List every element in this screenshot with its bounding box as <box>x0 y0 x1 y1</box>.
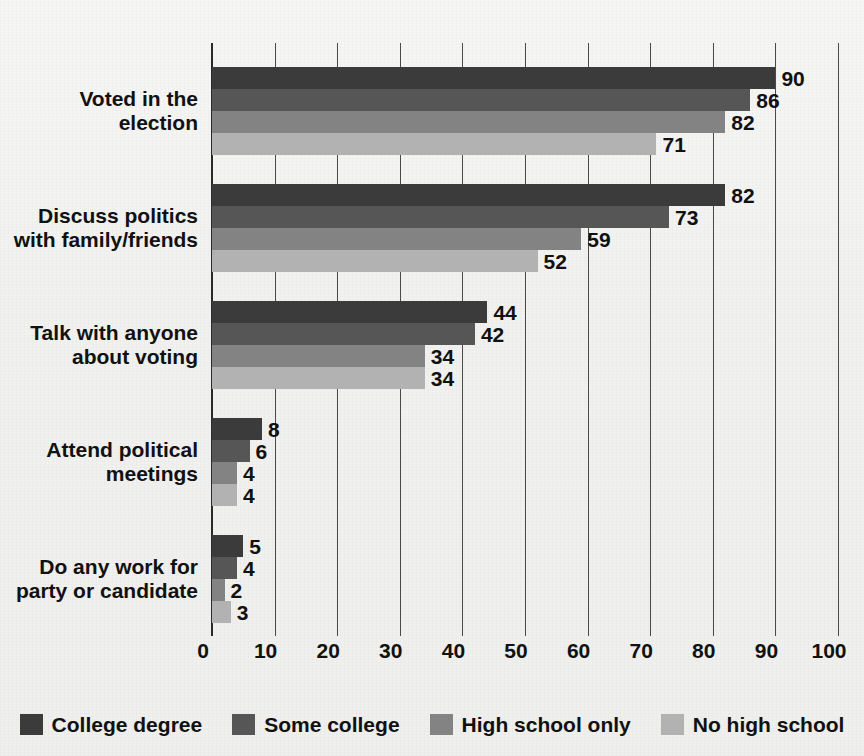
legend-item[interactable]: College degree <box>20 714 203 735</box>
bar-row: 82 <box>212 184 838 206</box>
bar[interactable] <box>212 579 225 601</box>
bar[interactable] <box>212 89 750 111</box>
chart-root: 90868271827359524442343486445423 Voted i… <box>0 0 864 756</box>
grid-line <box>838 43 839 636</box>
bar[interactable] <box>212 301 487 323</box>
legend-label: High school only <box>462 714 631 735</box>
bar-row: 2 <box>212 579 838 601</box>
bar-group: 44423434 <box>212 301 838 389</box>
bar[interactable] <box>212 111 725 133</box>
bar-value-label: 34 <box>431 368 454 389</box>
bar-group: 8644 <box>212 418 838 506</box>
x-tick-label: 20 <box>317 640 340 661</box>
bar[interactable] <box>212 601 231 623</box>
bar-row: 82 <box>212 111 838 133</box>
x-tick-label: 70 <box>630 640 653 661</box>
bar-row: 8 <box>212 418 838 440</box>
bar-row: 52 <box>212 250 838 272</box>
bar-group: 82735952 <box>212 184 838 272</box>
x-tick-label: 50 <box>504 640 527 661</box>
bar-row: 42 <box>212 323 838 345</box>
bar-row: 90 <box>212 67 838 89</box>
bar-row: 71 <box>212 133 838 155</box>
category-label: Discuss politics with family/friends <box>14 204 198 253</box>
category-label: Talk with anyone about voting <box>30 321 198 370</box>
legend-label: No high school <box>693 714 845 735</box>
bar-group: 90868271 <box>212 67 838 155</box>
legend-swatch-icon <box>20 714 43 735</box>
x-tick-label: 80 <box>692 640 715 661</box>
x-tick-label: 90 <box>755 640 778 661</box>
bar[interactable] <box>212 462 237 484</box>
bar-value-label: 90 <box>781 68 804 89</box>
bar[interactable] <box>212 133 656 155</box>
bar[interactable] <box>212 228 581 250</box>
bar[interactable] <box>212 67 775 89</box>
bar[interactable] <box>212 418 262 440</box>
bar-row: 6 <box>212 440 838 462</box>
bar-row: 3 <box>212 601 838 623</box>
legend-swatch-icon <box>232 714 255 735</box>
bar-value-label: 5 <box>249 536 261 557</box>
legend-item[interactable]: High school only <box>430 714 631 735</box>
legend-item[interactable]: No high school <box>661 714 845 735</box>
bar-value-label: 4 <box>243 558 255 579</box>
bar[interactable] <box>212 440 250 462</box>
x-tick-label: 40 <box>442 640 465 661</box>
bar[interactable] <box>212 184 725 206</box>
bar-row: 34 <box>212 345 838 367</box>
bar-value-label: 71 <box>662 134 685 155</box>
x-tick-label: 0 <box>197 640 209 661</box>
x-tick-label: 100 <box>811 640 846 661</box>
bar-value-label: 52 <box>544 251 567 272</box>
bar-row: 86 <box>212 89 838 111</box>
plot-area: 90868271827359524442343486445423 <box>212 43 838 636</box>
bar-value-label: 59 <box>587 229 610 250</box>
bar-value-label: 8 <box>268 419 280 440</box>
bar-value-label: 6 <box>256 441 268 462</box>
bar[interactable] <box>212 557 237 579</box>
bar-value-label: 3 <box>237 602 249 623</box>
category-label: Voted in the election <box>0 87 198 136</box>
bar-value-label: 42 <box>481 324 504 345</box>
legend-label: College degree <box>52 714 203 735</box>
category-label: Attend political meetings <box>46 438 198 487</box>
bar-group: 5423 <box>212 535 838 623</box>
bar[interactable] <box>212 206 669 228</box>
bar-value-label: 4 <box>243 463 255 484</box>
bar[interactable] <box>212 250 538 272</box>
bar-row: 4 <box>212 557 838 579</box>
x-tick-label: 10 <box>254 640 277 661</box>
bar-value-label: 2 <box>231 580 243 601</box>
bar-value-label: 4 <box>243 485 255 506</box>
bar-row: 34 <box>212 367 838 389</box>
bar[interactable] <box>212 345 425 367</box>
bar[interactable] <box>212 367 425 389</box>
bar-value-label: 82 <box>731 185 754 206</box>
legend-swatch-icon <box>661 714 684 735</box>
bar-value-label: 34 <box>431 346 454 367</box>
bar-row: 73 <box>212 206 838 228</box>
chart-legend: College degreeSome collegeHigh school on… <box>0 714 864 735</box>
bar[interactable] <box>212 484 237 506</box>
bar-row: 59 <box>212 228 838 250</box>
legend-swatch-icon <box>430 714 453 735</box>
bar-value-label: 86 <box>756 90 779 111</box>
legend-item[interactable]: Some college <box>232 714 399 735</box>
bar-value-label: 82 <box>731 112 754 133</box>
bar-row: 4 <box>212 462 838 484</box>
bar[interactable] <box>212 535 243 557</box>
x-tick-label: 30 <box>379 640 402 661</box>
category-label: Do any work for party or candidate <box>16 555 198 604</box>
legend-label: Some college <box>264 714 399 735</box>
bar-value-label: 44 <box>493 302 516 323</box>
bar-value-label: 73 <box>675 207 698 228</box>
bar-row: 5 <box>212 535 838 557</box>
x-tick-label: 60 <box>567 640 590 661</box>
bar-row: 4 <box>212 484 838 506</box>
bar-row: 44 <box>212 301 838 323</box>
bar[interactable] <box>212 323 475 345</box>
